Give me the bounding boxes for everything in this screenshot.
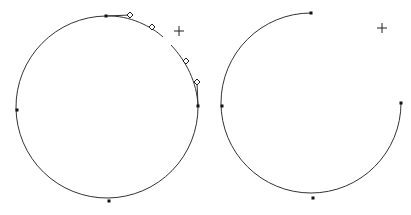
anchor-point-top[interactable] xyxy=(310,12,313,15)
anchor-point-right[interactable] xyxy=(197,105,200,108)
arc-outline[interactable] xyxy=(221,13,401,193)
anchor-point-left[interactable] xyxy=(221,105,224,108)
anchor-point-left[interactable] xyxy=(16,109,19,112)
bezier-handle-diamond-icon[interactable] xyxy=(194,79,200,85)
crosshair-cursor-icon xyxy=(377,23,387,33)
bezier-handle-diamond-icon[interactable] xyxy=(183,58,189,64)
selected-segment[interactable] xyxy=(171,45,198,106)
right-arc-path[interactable] xyxy=(221,12,403,200)
left-circle-path[interactable] xyxy=(16,12,201,203)
bezier-handle-line xyxy=(106,15,130,16)
crosshair-cursor-icon xyxy=(174,26,184,36)
anchor-point-top[interactable] xyxy=(105,15,108,18)
circle-outline[interactable] xyxy=(16,16,198,198)
bezier-handle-diamond-icon[interactable] xyxy=(127,12,133,18)
drawing-canvas[interactable] xyxy=(0,0,411,215)
anchor-point-bottom[interactable] xyxy=(108,200,111,203)
bezier-handle-diamond-icon[interactable] xyxy=(149,24,155,30)
bezier-handle-line xyxy=(197,82,198,106)
anchor-point-bottom[interactable] xyxy=(312,197,315,200)
anchor-point-right[interactable] xyxy=(400,102,403,105)
